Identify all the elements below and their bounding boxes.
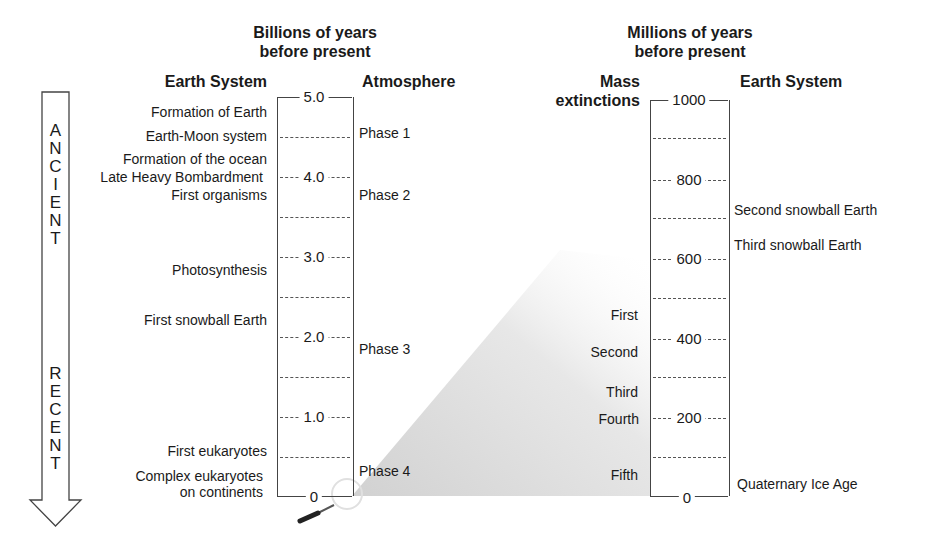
event-first-organisms: First organisms xyxy=(60,187,267,203)
phase-1: Phase 1 xyxy=(359,125,410,141)
tick-200: 200 xyxy=(672,410,705,426)
tick-400: 400 xyxy=(672,331,705,347)
event-quaternary-ice-age: Quaternary Ice Age xyxy=(737,476,858,492)
event-complex-eukaryotes: Complex eukaryotes on continents xyxy=(60,468,263,500)
tick-3.0: 3.0 xyxy=(300,249,329,265)
earth-system-header-right: Earth System xyxy=(740,72,842,91)
extinction-fourth: Fourth xyxy=(540,411,639,427)
tick-5.0: 5.0 xyxy=(300,89,329,105)
event-second-snowball-earth: Second snowball Earth xyxy=(734,202,877,218)
event-photosynthesis: Photosynthesis xyxy=(60,262,267,278)
earth-system-header: Earth System xyxy=(100,72,267,91)
billions-title: Billions of yearsbefore present xyxy=(215,23,415,61)
extinction-fifth: Fifth xyxy=(540,467,638,483)
extinction-third: Third xyxy=(540,384,638,400)
atmosphere-header: Atmosphere xyxy=(362,72,455,91)
phase-2: Phase 2 xyxy=(359,187,410,203)
tick-0: 0 xyxy=(306,489,322,505)
extinction-first: First xyxy=(540,307,638,323)
phase-3: Phase 3 xyxy=(359,341,410,357)
event-formation-of-ocean: Formation of the ocean xyxy=(60,151,267,167)
event-first-eukaryotes: First eukaryotes xyxy=(60,443,267,459)
tick-4.0: 4.0 xyxy=(300,169,329,185)
event-formation-of-earth: Formation of Earth xyxy=(60,104,267,120)
tick-1.0: 1.0 xyxy=(300,409,329,425)
extinction-second: Second xyxy=(540,344,638,360)
event-late-heavy-bombardment: Late Heavy Bombardment xyxy=(60,169,263,185)
tick-0-right: 0 xyxy=(679,490,695,506)
event-third-snowball-earth: Third snowball Earth xyxy=(734,237,862,253)
millions-title: Millions of yearsbefore present xyxy=(590,23,790,61)
tick-1000: 1000 xyxy=(668,92,709,108)
tick-800: 800 xyxy=(672,172,705,188)
tick-2.0: 2.0 xyxy=(300,329,329,345)
phase-4: Phase 4 xyxy=(359,463,410,479)
event-earth-moon-system: Earth-Moon system xyxy=(60,128,267,144)
mass-extinctions-header: Massextinctions xyxy=(520,72,640,110)
tick-600: 600 xyxy=(672,251,705,267)
event-first-snowball-earth: First snowball Earth xyxy=(60,312,267,328)
